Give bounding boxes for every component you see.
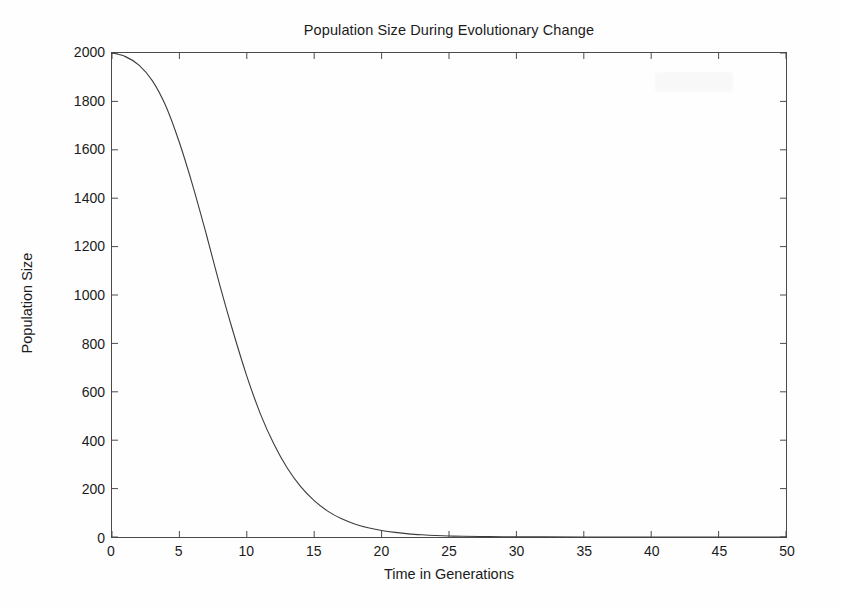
y-tick-label: 1200	[74, 238, 105, 254]
plot-svg	[112, 53, 786, 537]
x-tick-label: 25	[441, 543, 457, 559]
x-tick-label: 30	[509, 543, 525, 559]
y-tick-label: 1400	[74, 190, 105, 206]
y-tick-label: 800	[82, 336, 105, 352]
chart-title: Population Size During Evolutionary Chan…	[111, 22, 787, 38]
x-tick-label: 35	[576, 543, 592, 559]
tick-marks	[112, 53, 786, 537]
y-tick-label: 600	[82, 384, 105, 400]
y-tick-label: 1800	[74, 93, 105, 109]
population-curve	[112, 53, 786, 537]
x-tick-label: 10	[238, 543, 254, 559]
plot-area	[111, 52, 787, 538]
x-tick-label: 40	[644, 543, 660, 559]
x-tick-label: 45	[712, 543, 728, 559]
x-tick-label: 0	[107, 543, 115, 559]
y-tick-label: 2000	[74, 44, 105, 60]
y-tick-label: 400	[82, 433, 105, 449]
y-tick-label: 1000	[74, 287, 105, 303]
x-axis-label: Time in Generations	[111, 566, 787, 582]
x-tick-label: 50	[779, 543, 795, 559]
figure-canvas: Population Size During Evolutionary Chan…	[0, 0, 841, 607]
x-tick-label: 5	[175, 543, 183, 559]
x-tick-label: 20	[374, 543, 390, 559]
y-tick-label: 200	[82, 481, 105, 497]
y-tick-label: 0	[97, 530, 105, 546]
x-tick-label: 15	[306, 543, 322, 559]
y-tick-label: 1600	[74, 141, 105, 157]
x-axis-tick-labels: 05101520253035404550	[111, 543, 787, 565]
y-axis-tick-labels: 0200400600800100012001400160018002000	[44, 52, 105, 538]
y-axis-label: Population Size	[19, 233, 35, 373]
